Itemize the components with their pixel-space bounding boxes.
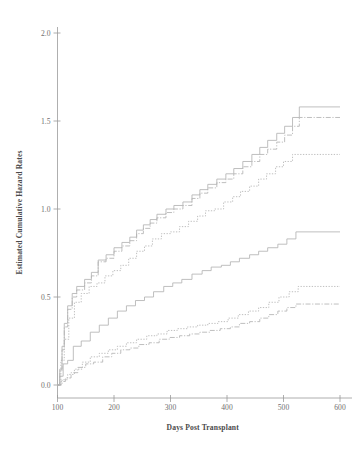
series-curves: [58, 107, 341, 385]
y-tick-label: 0.5: [41, 293, 51, 302]
chart-canvas: 0.00.51.01.52.0 100200300400500600 Days …: [0, 0, 358, 452]
x-tick-label: 200: [108, 403, 120, 412]
x-axis-title: Days Post Transplant: [167, 423, 240, 432]
y-tick-label: 1.0: [41, 205, 51, 214]
series-lower-dashdot: [58, 304, 341, 385]
hazard-rate-chart-figure: 0.00.51.01.52.0 100200300400500600 Days …: [0, 0, 358, 452]
x-axis-ticks: 100200300400500600: [52, 395, 346, 412]
x-tick-label: 600: [334, 403, 346, 412]
series-lower-dotted: [58, 286, 341, 385]
y-axis-title: Estimated Cumulative Hazard Rates: [15, 150, 24, 274]
x-tick-label: 300: [165, 403, 177, 412]
y-tick-label: 0.0: [41, 381, 51, 390]
series-upper-dashdot: [58, 117, 341, 385]
series-lower-solid: [58, 232, 341, 385]
x-tick-label: 100: [52, 403, 64, 412]
series-upper-dotted: [58, 154, 341, 385]
x-tick-label: 500: [278, 403, 290, 412]
y-tick-label: 2.0: [41, 29, 51, 38]
series-upper-solid: [58, 107, 341, 385]
x-tick-label: 400: [221, 403, 233, 412]
y-tick-label: 1.5: [41, 117, 51, 126]
